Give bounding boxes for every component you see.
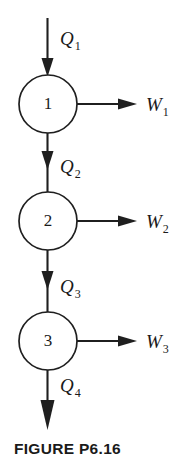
node-2-group: 2 bbox=[19, 192, 77, 250]
flow-arrow-q1 bbox=[42, 18, 54, 77]
flow-label-w2: W2 bbox=[146, 211, 169, 236]
flow-label-q2-subscript: 2 bbox=[75, 167, 81, 181]
flow-label-w1-symbol: W bbox=[146, 94, 164, 115]
flow-label-w3-symbol: W bbox=[146, 331, 164, 352]
flow-label-q1-symbol: Q bbox=[60, 28, 74, 49]
flow-arrow-q3 bbox=[42, 250, 54, 312]
flow-label-q4: Q4 bbox=[60, 375, 81, 400]
q3-arrow-head bbox=[42, 271, 54, 290]
w3-arrow-head bbox=[118, 336, 137, 347]
flow-label-q2: Q2 bbox=[60, 156, 81, 181]
flow-arrow-q2 bbox=[42, 133, 54, 192]
flow-arrow-w1 bbox=[77, 99, 137, 110]
node-3-label: 3 bbox=[44, 331, 53, 350]
flow-arrow-w2 bbox=[77, 216, 137, 227]
figure-caption: FIGURE P6.16 bbox=[14, 440, 174, 458]
flow-label-w2-subscript: 2 bbox=[163, 222, 169, 236]
figure-container: 1 2 3 bbox=[0, 0, 186, 473]
q4-arrow-head bbox=[41, 400, 55, 430]
flow-arrow-q4 bbox=[41, 370, 55, 430]
flow-label-q3-subscript: 3 bbox=[75, 287, 81, 301]
node-3-group: 3 bbox=[19, 312, 77, 370]
q1-arrow-head bbox=[42, 58, 54, 77]
w1-arrow-head bbox=[118, 99, 137, 110]
flow-label-q1: Q1 bbox=[60, 28, 81, 53]
flow-label-w1-subscript: 1 bbox=[163, 105, 169, 119]
flow-label-q3-symbol: Q bbox=[60, 276, 74, 297]
flow-label-w2-symbol: W bbox=[146, 211, 164, 232]
flow-label-q4-subscript: 4 bbox=[75, 386, 81, 400]
flow-label-w3-subscript: 3 bbox=[163, 342, 169, 356]
flow-label-q4-symbol: Q bbox=[60, 375, 74, 396]
flow-label-q2-symbol: Q bbox=[60, 156, 74, 177]
node-1-group: 1 bbox=[19, 75, 77, 133]
flow-label-q3: Q3 bbox=[60, 276, 81, 301]
flow-arrow-w3 bbox=[77, 336, 137, 347]
node-1-label: 1 bbox=[44, 94, 53, 113]
flow-label-q1-subscript: 1 bbox=[75, 39, 81, 53]
process-flow-diagram: 1 2 3 bbox=[0, 0, 186, 473]
flow-label-w3: W3 bbox=[146, 331, 169, 356]
node-2-label: 2 bbox=[44, 211, 53, 230]
flow-label-w1: W1 bbox=[146, 94, 169, 119]
w2-arrow-head bbox=[118, 216, 137, 227]
q2-arrow-head bbox=[42, 151, 54, 170]
